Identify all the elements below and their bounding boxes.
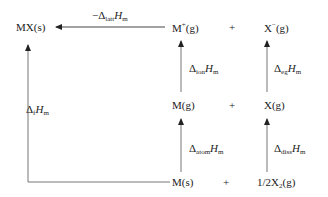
electron-gain-enthalpy-label: ΔegHm (274, 63, 301, 76)
subscript: atom (196, 148, 210, 156)
subscript: m (43, 109, 48, 117)
halogen-atom-gas-label: X(g) (264, 100, 285, 111)
subscript: m (218, 148, 223, 156)
half-halogen-molecule-label: 1/2X2(g) (257, 177, 295, 190)
enthalpy-symbol: H (114, 9, 122, 21)
metal-cation-gas-label: M+(g) (172, 22, 199, 34)
mx-solid-label: MX(s) (16, 22, 45, 33)
subscript: m (296, 68, 301, 76)
subscript: m (122, 15, 127, 23)
enthalpy-symbol: H (292, 142, 300, 154)
base: X (264, 22, 272, 34)
metal-gas-label: M(g) (172, 100, 195, 111)
atomisation-enthalpy-label: ΔatomHm (189, 143, 223, 156)
formation-path (28, 45, 170, 182)
lattice-enthalpy-label: −ΔlattHm (92, 10, 128, 23)
plus-sign-bottom: + (223, 177, 229, 188)
subscript: m (213, 68, 218, 76)
subscript: eg (281, 68, 288, 76)
subscript: diss (281, 148, 292, 156)
enthalpy-symbol: H (210, 142, 218, 154)
metal-solid-label: M(s) (172, 177, 193, 188)
delta-symbol: −Δ (92, 9, 105, 21)
subscript: latt (105, 15, 114, 23)
plus-sign-middle: + (229, 100, 235, 111)
prefix: 1/2X (257, 176, 279, 188)
state: (g) (276, 22, 289, 34)
base: M (172, 22, 182, 34)
enthalpy-symbol: H (205, 62, 213, 74)
state: (g) (283, 176, 296, 188)
dissociation-enthalpy-label: ΔdissHm (274, 143, 305, 156)
state: (g) (186, 22, 199, 34)
formation-enthalpy-label: ΔfHm (26, 104, 49, 117)
enthalpy-symbol: H (288, 62, 296, 74)
halide-anion-gas-label: X−(g) (264, 22, 289, 34)
plus-sign-top: + (229, 22, 235, 33)
subscript: ion (196, 68, 205, 76)
ionisation-enthalpy-label: ΔionHm (189, 63, 218, 76)
subscript: m (300, 148, 305, 156)
